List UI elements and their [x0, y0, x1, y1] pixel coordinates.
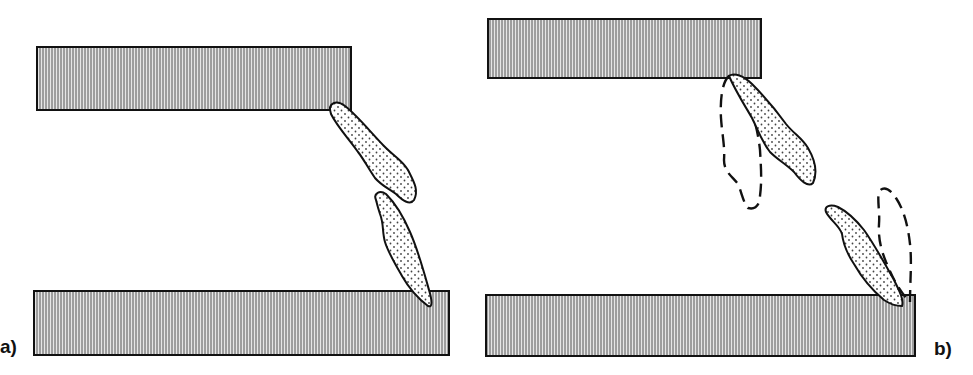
fragment-upper-a	[330, 103, 416, 203]
panel-a-label: a)	[0, 336, 17, 358]
top-plate-a	[37, 47, 351, 110]
bottom-plate-a	[34, 291, 449, 355]
fragment-upper-b	[729, 74, 815, 184]
top-plate-b	[488, 19, 761, 78]
bottom-plate-b	[486, 295, 915, 356]
diagram-canvas	[0, 0, 973, 375]
fragment-lower-b	[826, 206, 903, 306]
fragment-lower-a	[375, 192, 431, 306]
panel-b	[486, 19, 915, 356]
panel-a	[34, 47, 449, 355]
panel-b-label: b)	[934, 338, 952, 360]
